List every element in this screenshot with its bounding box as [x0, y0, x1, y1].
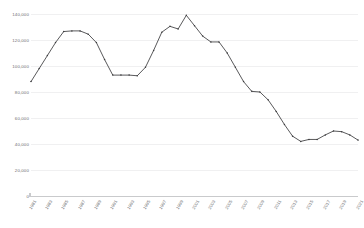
series-data-point [276, 111, 278, 113]
series-data-point [300, 141, 302, 143]
series-data-point [235, 67, 237, 69]
series-markers [30, 15, 359, 143]
series-data-point [226, 52, 228, 54]
series-data-point [104, 59, 106, 61]
series-data-point [267, 99, 269, 101]
series-data-point [87, 33, 89, 35]
series-data-point [251, 91, 253, 93]
series-data-point [210, 41, 212, 43]
series-data-point [177, 28, 179, 30]
series-data-point [145, 67, 147, 69]
series-data-point [349, 134, 351, 136]
series-data-point [357, 139, 359, 141]
series-data-point [153, 50, 155, 52]
series-data-point [96, 42, 98, 44]
series-data-point [202, 35, 204, 37]
series-data-point [128, 74, 130, 76]
series-data-point [112, 74, 114, 76]
series-data-point [169, 26, 171, 28]
series-data-point [284, 124, 286, 126]
series-data-point [259, 91, 261, 93]
series-data-point [71, 30, 73, 32]
series-data-point [292, 135, 294, 137]
series-line-path [31, 15, 358, 141]
series-data-point [341, 131, 343, 133]
series-data-point [63, 31, 64, 33]
series-data-point [308, 139, 310, 141]
series-data-point [120, 74, 122, 76]
series-data-point [186, 15, 188, 16]
series-data-point [333, 130, 335, 132]
series-data-point [161, 31, 163, 33]
series-data-point [194, 25, 196, 27]
series-data-point [38, 68, 40, 70]
series-data-point [55, 42, 57, 44]
series-data-point [218, 41, 220, 43]
series-data-point [316, 139, 318, 141]
series-data-point [47, 55, 49, 57]
series-data-point [79, 30, 81, 32]
series-data-point [137, 75, 139, 77]
series-data-point [30, 81, 32, 83]
series-data-point [325, 134, 327, 136]
series-data-point [243, 81, 245, 83]
